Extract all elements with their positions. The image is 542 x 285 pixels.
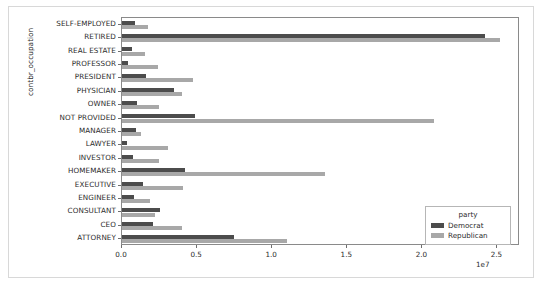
y-tick-label: EXECUTIVE bbox=[75, 181, 116, 189]
legend-label-democrat: Democrat bbox=[448, 221, 484, 230]
x-tick-mark bbox=[196, 245, 197, 248]
x-tick-label: 0.5 bbox=[190, 250, 201, 259]
y-tick-label: PRESIDENT bbox=[75, 73, 116, 81]
bar-republican bbox=[122, 199, 150, 203]
y-tick-label: LAWYER bbox=[86, 140, 116, 148]
y-tick-mark bbox=[118, 104, 121, 105]
bar-republican bbox=[122, 38, 500, 42]
x-tick-mark bbox=[271, 245, 272, 248]
x-tick-mark bbox=[421, 245, 422, 248]
bar-republican bbox=[122, 25, 148, 29]
bar-republican bbox=[122, 186, 183, 190]
y-tick-label: INVESTOR bbox=[79, 154, 116, 162]
y-tick-label: SELF-EMPLOYED bbox=[56, 20, 116, 28]
y-tick-label: CEO bbox=[100, 221, 116, 229]
y-tick-label: ENGINEER bbox=[78, 194, 116, 202]
legend-title: party bbox=[431, 210, 505, 219]
y-tick-mark bbox=[118, 198, 121, 199]
x-tick-label: 0.0 bbox=[115, 250, 126, 259]
y-tick-label: MANAGER bbox=[79, 127, 116, 135]
x-axis-exponent-label: 1e7 bbox=[476, 260, 490, 269]
bar-republican bbox=[122, 78, 193, 82]
y-tick-mark bbox=[118, 24, 121, 25]
x-tick-mark bbox=[346, 245, 347, 248]
x-tick-label: 2.0 bbox=[416, 250, 427, 259]
y-tick-label-group: SELF-EMPLOYEDRETIREDREAL ESTATEPROFESSOR… bbox=[0, 17, 116, 245]
y-tick-label: NOT PROVIDED bbox=[60, 114, 116, 122]
y-tick-label: RETIRED bbox=[84, 33, 116, 41]
x-tick-label: 1.5 bbox=[341, 250, 352, 259]
y-tick-label: ATTORNEY bbox=[77, 234, 116, 242]
legend-label-republican: Republican bbox=[448, 231, 488, 240]
bar-republican bbox=[122, 119, 434, 123]
y-tick-mark bbox=[118, 171, 121, 172]
y-tick-mark bbox=[118, 91, 121, 92]
y-tick-mark bbox=[118, 77, 121, 78]
bar-republican bbox=[122, 132, 141, 136]
y-tick-label: REAL ESTATE bbox=[68, 47, 116, 55]
legend-swatch-republican bbox=[431, 233, 444, 238]
legend-item-democrat: Democrat bbox=[431, 221, 505, 230]
y-tick-mark bbox=[118, 64, 121, 65]
x-tick-label: 2.5 bbox=[491, 250, 502, 259]
y-tick-label: HOMEMAKER bbox=[68, 167, 116, 175]
figure-canvas: contbr_occupation SELF-EMPLOYEDRETIREDRE… bbox=[0, 0, 542, 285]
x-tick-label: 1.0 bbox=[265, 250, 276, 259]
bar-republican bbox=[122, 65, 158, 69]
bar-republican bbox=[122, 159, 159, 163]
bar-republican bbox=[122, 146, 168, 150]
legend: party Democrat Republican bbox=[425, 206, 511, 245]
y-tick-mark bbox=[118, 185, 121, 186]
x-tick-mark bbox=[121, 245, 122, 248]
y-tick-mark bbox=[118, 158, 121, 159]
bar-republican bbox=[122, 172, 325, 176]
y-tick-label: CONSULTANT bbox=[68, 207, 116, 215]
y-tick-mark bbox=[118, 37, 121, 38]
y-tick-label: OWNER bbox=[88, 100, 116, 108]
legend-swatch-democrat bbox=[431, 223, 444, 228]
y-tick-mark bbox=[118, 51, 121, 52]
bar-republican bbox=[122, 92, 182, 96]
bar-republican bbox=[122, 213, 155, 217]
legend-item-republican: Republican bbox=[431, 231, 505, 240]
y-tick-label: PHYSICIAN bbox=[77, 87, 116, 95]
x-tick-mark bbox=[496, 245, 497, 248]
y-tick-mark bbox=[118, 238, 121, 239]
bar-republican bbox=[122, 52, 145, 56]
y-tick-mark bbox=[118, 225, 121, 226]
bar-republican bbox=[122, 226, 182, 230]
y-tick-mark bbox=[118, 131, 121, 132]
y-tick-mark bbox=[118, 118, 121, 119]
y-tick-mark bbox=[118, 144, 121, 145]
y-tick-mark bbox=[118, 211, 121, 212]
bar-republican bbox=[122, 105, 159, 109]
y-tick-label: PROFESSOR bbox=[72, 60, 116, 68]
bar-republican bbox=[122, 239, 287, 243]
